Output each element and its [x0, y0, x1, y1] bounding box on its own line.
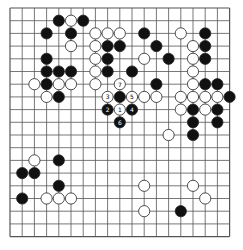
move-number: 5 — [130, 93, 134, 100]
black-stone[interactable] — [175, 206, 186, 217]
white-stone[interactable] — [187, 79, 198, 90]
white-stone[interactable] — [187, 180, 198, 191]
white-stone[interactable] — [139, 91, 150, 102]
black-stone[interactable] — [151, 41, 162, 52]
black-stone[interactable] — [17, 168, 28, 179]
black-stone[interactable] — [114, 91, 125, 102]
black-stone[interactable] — [65, 66, 76, 77]
white-stone[interactable] — [29, 79, 40, 90]
white-stone[interactable] — [41, 193, 52, 204]
white-stone[interactable] — [41, 91, 52, 102]
white-stone[interactable] — [187, 41, 198, 52]
black-stone[interactable] — [187, 129, 198, 140]
black-stone[interactable] — [102, 53, 113, 64]
white-stone[interactable] — [53, 193, 64, 204]
black-stone[interactable] — [139, 28, 150, 39]
black-stone[interactable] — [212, 79, 223, 90]
move-number: 1 — [118, 106, 122, 113]
white-stone[interactable] — [200, 104, 211, 115]
black-stone[interactable] — [187, 104, 198, 115]
white-stone[interactable] — [139, 53, 150, 64]
move-number: 4 — [130, 106, 134, 113]
white-stone[interactable] — [90, 41, 101, 52]
white-stone[interactable] — [65, 79, 76, 90]
move-number: 6 — [118, 119, 122, 126]
white-stone[interactable]: 5 — [126, 91, 137, 102]
black-stone[interactable] — [41, 28, 52, 39]
black-stone[interactable] — [41, 79, 52, 90]
white-stone[interactable] — [90, 79, 101, 90]
black-stone[interactable] — [53, 91, 64, 102]
black-stone[interactable] — [151, 79, 162, 90]
black-stone[interactable] — [53, 180, 64, 191]
white-stone[interactable] — [65, 15, 76, 26]
black-stone[interactable] — [102, 41, 113, 52]
black-stone[interactable] — [212, 117, 223, 128]
white-stone[interactable] — [139, 206, 150, 217]
white-stone[interactable] — [114, 28, 125, 39]
black-stone[interactable]: 2 — [102, 104, 113, 115]
go-board[interactable]: 7352146 — [0, 0, 243, 250]
white-stone[interactable]: 1 — [114, 104, 125, 115]
white-stone[interactable] — [29, 155, 40, 166]
white-stone[interactable] — [175, 28, 186, 39]
white-stone[interactable] — [175, 104, 186, 115]
white-stone[interactable] — [65, 41, 76, 52]
black-stone[interactable]: 4 — [126, 104, 137, 115]
white-stone[interactable] — [212, 91, 223, 102]
white-stone[interactable] — [102, 28, 113, 39]
black-stone[interactable] — [187, 117, 198, 128]
white-stone[interactable] — [163, 129, 174, 140]
white-stone[interactable] — [53, 79, 64, 90]
white-stone[interactable] — [90, 28, 101, 39]
black-stone[interactable] — [53, 155, 64, 166]
black-stone[interactable] — [53, 15, 64, 26]
move-number: 3 — [106, 93, 110, 100]
move-number: 2 — [106, 106, 110, 113]
black-stone[interactable] — [126, 66, 137, 77]
stones-layer: 7352146 — [17, 15, 236, 217]
black-stone[interactable] — [41, 66, 52, 77]
black-stone[interactable] — [114, 41, 125, 52]
white-stone[interactable] — [175, 91, 186, 102]
black-stone[interactable] — [41, 53, 52, 64]
black-stone[interactable] — [200, 41, 211, 52]
black-stone[interactable] — [212, 104, 223, 115]
white-stone[interactable] — [187, 53, 198, 64]
black-stone[interactable] — [200, 79, 211, 90]
white-stone[interactable] — [139, 180, 150, 191]
black-stone[interactable] — [65, 28, 76, 39]
black-stone[interactable] — [53, 66, 64, 77]
white-stone[interactable] — [187, 66, 198, 77]
black-stone[interactable] — [29, 168, 40, 179]
black-stone[interactable]: 6 — [114, 117, 125, 128]
white-stone[interactable]: 7 — [114, 79, 125, 90]
white-stone[interactable] — [65, 193, 76, 204]
black-stone[interactable] — [200, 53, 211, 64]
white-stone[interactable] — [200, 91, 211, 102]
black-stone[interactable] — [78, 15, 89, 26]
white-stone[interactable] — [187, 91, 198, 102]
white-stone[interactable] — [151, 91, 162, 102]
black-stone[interactable] — [163, 53, 174, 64]
black-stone[interactable] — [224, 91, 235, 102]
white-stone[interactable]: 3 — [102, 91, 113, 102]
move-number: 7 — [118, 81, 122, 88]
white-stone[interactable] — [200, 193, 211, 204]
black-stone[interactable] — [200, 28, 211, 39]
black-stone[interactable] — [17, 193, 28, 204]
white-stone[interactable] — [90, 53, 101, 64]
black-stone[interactable] — [102, 66, 113, 77]
white-stone[interactable] — [90, 66, 101, 77]
